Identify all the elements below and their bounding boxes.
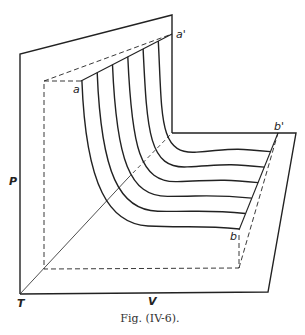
label-b: b xyxy=(230,230,237,243)
dashed-projection xyxy=(44,81,239,269)
dashed-top xyxy=(44,34,172,81)
label-p-axis: P xyxy=(9,175,17,188)
isotherm-curve xyxy=(82,81,240,230)
edge-a-aprime xyxy=(81,34,172,81)
figure-caption: Fig. (IV-6). xyxy=(120,312,179,325)
back-plane xyxy=(20,15,172,294)
isotherm-curve xyxy=(128,57,258,183)
label-b-prime: b' xyxy=(274,120,284,133)
dashed-right xyxy=(239,133,278,268)
pvt-diagram: a a' b b' P T V Fig. (IV-6). xyxy=(0,0,305,335)
isotherm-curve xyxy=(113,65,252,198)
isotherm-curve xyxy=(158,41,270,152)
label-a: a xyxy=(73,83,80,96)
label-v-axis: V xyxy=(148,295,158,308)
t-axis-line xyxy=(20,178,128,294)
label-t-axis: T xyxy=(17,297,26,310)
label-a-prime: a' xyxy=(176,28,186,41)
